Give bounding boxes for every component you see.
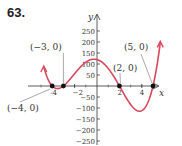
point-label: (−4, 0) [7, 103, 39, 113]
polynomial-curve [44, 42, 160, 111]
y-tick-label: 200 [82, 39, 95, 47]
point-label: (5, 0) [124, 42, 148, 52]
y-axis-label: y [87, 12, 94, 22]
y-tick-label: −200 [76, 127, 95, 135]
polynomial-graph: xy-4−22425020015010050−50−100−150−200−25… [0, 0, 182, 146]
zero-point [117, 84, 122, 89]
zero-point [61, 84, 66, 89]
y-tick-label: 50 [86, 72, 95, 80]
zero-point [50, 84, 55, 89]
point-label: (−3, 0) [30, 42, 62, 52]
leader-line [141, 54, 152, 83]
leader-line [20, 89, 50, 102]
point-label: (2, 0) [113, 63, 137, 73]
y-tick-label: −50 [80, 94, 95, 102]
x-axis-label: x [159, 88, 164, 98]
y-tick-label: 150 [82, 50, 95, 58]
y-tick-label: −100 [76, 105, 95, 113]
x-tick-label: -4 [50, 89, 57, 97]
y-tick-label: −250 [76, 138, 95, 146]
x-tick-label: 4 [140, 89, 145, 97]
zero-point [151, 84, 156, 89]
y-tick-label: −150 [76, 116, 95, 124]
y-tick-label: 250 [82, 28, 95, 36]
